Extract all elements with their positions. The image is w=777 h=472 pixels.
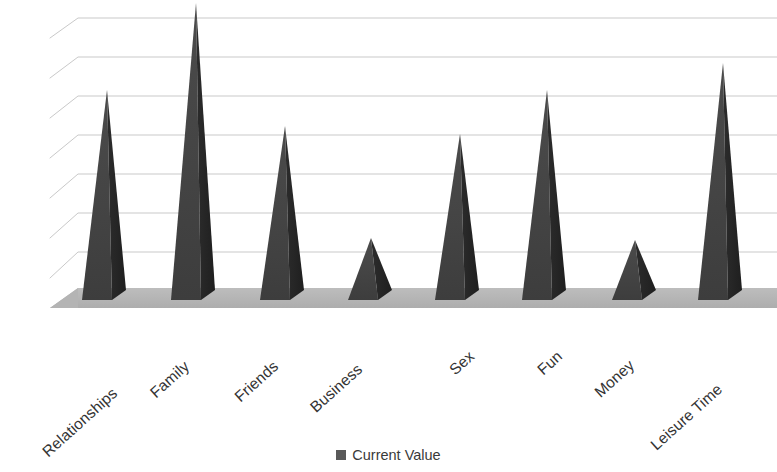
bar-family <box>171 3 215 300</box>
pyramid-chart: Relationships Family Friends Business Se… <box>0 0 777 472</box>
bar-front-face <box>82 90 112 300</box>
bar-relationships <box>82 90 126 300</box>
bar-front-face <box>698 63 728 300</box>
bar-money <box>612 240 656 300</box>
chart-plot-area <box>0 0 777 430</box>
bar-fun <box>522 90 566 300</box>
legend-label-current-value: Current Value <box>352 448 440 463</box>
bar-front-face <box>522 90 552 300</box>
chart-floor <box>50 288 777 308</box>
bar-front-face <box>435 134 465 300</box>
bar-business <box>348 238 392 300</box>
bar-sex <box>435 134 479 300</box>
gridlines <box>50 18 777 278</box>
bar-front-face <box>171 3 201 300</box>
bar-leisure-time <box>698 63 742 300</box>
legend-swatch-current-value <box>336 450 346 460</box>
chart-legend: Current Value <box>0 448 777 463</box>
